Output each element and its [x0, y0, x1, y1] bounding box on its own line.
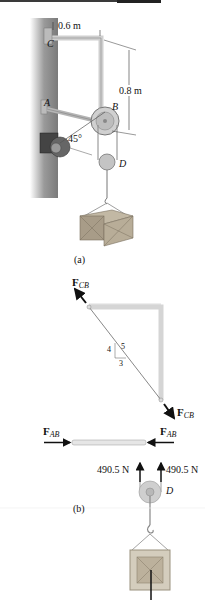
tension-right-label: 490.5 N — [166, 464, 198, 475]
caption-b: (b) — [73, 503, 85, 514]
slope-hyp-5: 5 — [121, 342, 125, 351]
force-fab-left-label: FAB — [43, 425, 60, 439]
force-fcb-top-label: FCB — [72, 276, 89, 290]
point-a-label: A — [44, 97, 50, 108]
force-fab-right-label: FAB — [160, 425, 177, 439]
point-b-label: B — [112, 101, 118, 112]
pulley-d-label: D — [166, 485, 173, 496]
force-fcb-bottom-label: FCB — [177, 406, 194, 420]
slope-run-3: 3 — [119, 359, 123, 368]
dimension-0.8m: 0.8 m — [119, 85, 142, 96]
figure-a-drawing — [30, 18, 136, 246]
point-c-label: C — [47, 38, 54, 49]
caption-a: (a) — [74, 254, 85, 265]
figure-b-fbd-member-ab — [44, 440, 174, 445]
dimension-0.6m: 0.6 m — [58, 20, 81, 31]
figure-b-fbd-frame — [75, 289, 174, 418]
tension-left-label: 490.5 N — [97, 464, 129, 475]
point-d-label: D — [119, 158, 126, 169]
diagram-canvas — [0, 0, 205, 600]
angle-45-label: 45° — [68, 133, 82, 144]
slope-rise-4: 4 — [107, 345, 111, 354]
figure-b-fbd-pulley-d — [0, 463, 205, 600]
